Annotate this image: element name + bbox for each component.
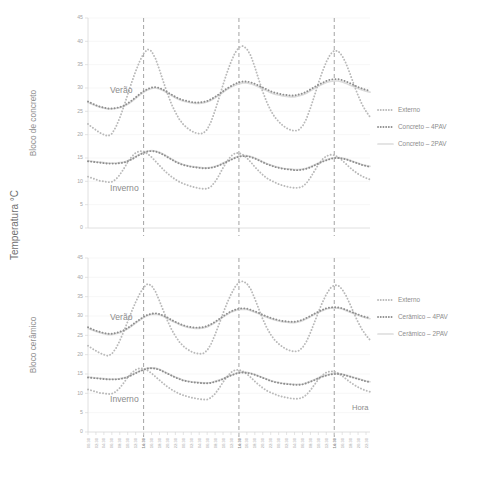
x-tick-label: 08:30	[213, 437, 218, 448]
y-tick-label: 20	[77, 351, 83, 357]
season-label-summer: Verão	[110, 312, 133, 322]
x-tick-label: 02:30	[94, 437, 99, 448]
x-tick-label: 14:30	[141, 437, 146, 448]
x-tick-label: 06:30	[205, 437, 210, 448]
x-tick-label: 22:30	[173, 437, 178, 448]
x-tick-label: 16:30	[149, 437, 154, 448]
x-tick-label: 00:30	[276, 437, 281, 448]
x-tick-label: 08:30	[117, 437, 122, 448]
chart-canvas: 051015202530354045VerãoInvernoBloco de c…	[0, 0, 480, 479]
y-axis-title: Temperatura °C	[9, 190, 20, 260]
y-tick-label: 0	[80, 428, 83, 434]
x-tick-label: 04:30	[292, 437, 297, 448]
y-tick-label: 5	[80, 409, 83, 415]
x-tick-label: 06:30	[109, 437, 114, 448]
x-tick-label: 16:30	[244, 437, 249, 448]
y-tick-label: 45	[77, 14, 83, 20]
x-tick-label: 02:30	[284, 437, 289, 448]
season-label-summer: Verão	[110, 85, 133, 95]
legend-label-concreto-2pav: Concreto – 2PAV	[398, 140, 447, 147]
legend-label-externo: Externo	[398, 296, 420, 303]
x-tick-label: 16:30	[340, 437, 345, 448]
temperature-chart-figure: 051015202530354045VerãoInvernoBloco de c…	[0, 0, 480, 479]
x-tick-label: 08:30	[308, 437, 313, 448]
x-tick-label: 04:30	[101, 437, 106, 448]
x-tick-label: 10:30	[221, 437, 226, 448]
x-tick-label: 06:30	[300, 437, 305, 448]
x-tick-label: 22:30	[268, 437, 273, 448]
x-tick-label: 10:30	[125, 437, 130, 448]
x-tick-label: 18:30	[157, 437, 162, 448]
y-tick-label: 10	[77, 390, 83, 396]
y-tick-label: 10	[77, 178, 83, 184]
season-label-winter: Inverno	[110, 394, 139, 404]
y-tick-label: 25	[77, 108, 83, 114]
x-tick-label: 04:30	[197, 437, 202, 448]
panel-label-ceramico: Bloco cerâmico	[28, 316, 38, 373]
x-tick-label: 12:30	[229, 437, 234, 448]
y-tick-label: 40	[77, 274, 83, 280]
y-tick-label: 35	[77, 293, 83, 299]
x-tick-label: 14:30	[332, 437, 337, 448]
y-tick-label: 20	[77, 131, 83, 137]
x-tick-label: 20:30	[260, 437, 265, 448]
x-tick-label: 20:30	[356, 437, 361, 448]
x-tick-label: 20:30	[165, 437, 170, 448]
x-tick-label: 00:30	[181, 437, 186, 448]
series-concreto-4pav	[88, 151, 370, 170]
panel-ceramico: 051015202530354045VerãoInvernoBloco cerâ…	[28, 254, 449, 440]
season-label-winter: Inverno	[110, 183, 139, 193]
legend-label-cer-mico-4pav: Cerâmico – 4PAV	[398, 313, 449, 320]
y-tick-label: 15	[77, 370, 83, 376]
x-tick-label: 18:30	[252, 437, 257, 448]
x-tick-label: 12:30	[133, 437, 138, 448]
x-tick-label: 00:30	[86, 437, 91, 448]
panel-label-concreto: Bloco de concreto	[28, 89, 38, 156]
legend-label-concreto-4pav: Concreto – 4PAV	[398, 123, 447, 130]
y-tick-label: 15	[77, 154, 83, 160]
y-tick-label: 5	[80, 201, 83, 207]
legend-label-externo: Externo	[398, 106, 420, 113]
y-tick-label: 0	[80, 224, 83, 230]
y-tick-label: 35	[77, 61, 83, 67]
x-tick-label: 18:30	[348, 437, 353, 448]
x-axis-title: Hora	[352, 403, 369, 412]
y-tick-label: 25	[77, 332, 83, 338]
y-tick-label: 30	[77, 312, 83, 318]
x-tick-label: 14:30	[237, 437, 242, 448]
x-tick-label: 10:30	[316, 437, 321, 448]
x-tick-label: 02:30	[189, 437, 194, 448]
legend-label-cer-mico-2pav: Cerâmico – 2PAV	[398, 330, 449, 337]
y-tick-label: 40	[77, 38, 83, 44]
panel-concreto: 051015202530354045VerãoInvernoBloco de c…	[28, 14, 447, 236]
x-tick-label: 22:30	[364, 437, 369, 448]
y-tick-label: 30	[77, 84, 83, 90]
y-tick-label: 45	[77, 254, 83, 260]
x-axis-labels: 00:3002:3004:3006:3008:3010:3012:3014:30…	[86, 432, 369, 448]
x-tick-label: 12:30	[324, 437, 329, 448]
